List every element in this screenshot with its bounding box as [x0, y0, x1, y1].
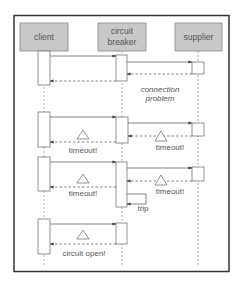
- supplier-activation-2: [192, 123, 204, 136]
- participant-breaker-label-line2: breaker: [108, 37, 137, 47]
- trip-label: trip: [137, 204, 149, 213]
- participant-breaker-label-line1: circuit: [111, 26, 134, 36]
- participant-supplier: supplier: [175, 23, 222, 51]
- client-activation-4: [38, 219, 50, 254]
- sequence-diagram: client circuit breaker supplier: [0, 0, 242, 285]
- timeout-label-supplier-3: timeout!: [156, 187, 184, 196]
- breaker-activation-1: [116, 55, 127, 81]
- client-activation-2: [38, 112, 50, 147]
- timeout-label-client-2: timeout!: [69, 146, 97, 155]
- supplier-activation-3: [192, 167, 204, 181]
- participant-circuit-breaker: circuit breaker: [98, 23, 146, 51]
- breaker-activation-3: [116, 162, 127, 207]
- client-activation-1: [38, 51, 50, 85]
- breaker-activation-2: [116, 117, 128, 143]
- timeout-label-supplier-2: timeout!: [156, 143, 184, 152]
- participant-client: client: [20, 23, 68, 51]
- connection-problem-label-line2: problem: [145, 94, 175, 103]
- participant-supplier-label: supplier: [184, 32, 214, 42]
- breaker-activation-4: [116, 223, 127, 244]
- supplier-activation-1: [192, 62, 204, 74]
- client-activation-3: [38, 157, 50, 191]
- circuit-open-label: circuit open!: [62, 249, 105, 258]
- timeout-label-client-3: timeout!: [69, 189, 97, 198]
- participant-client-label: client: [34, 32, 54, 42]
- connection-problem-label-line1: connection: [141, 85, 180, 94]
